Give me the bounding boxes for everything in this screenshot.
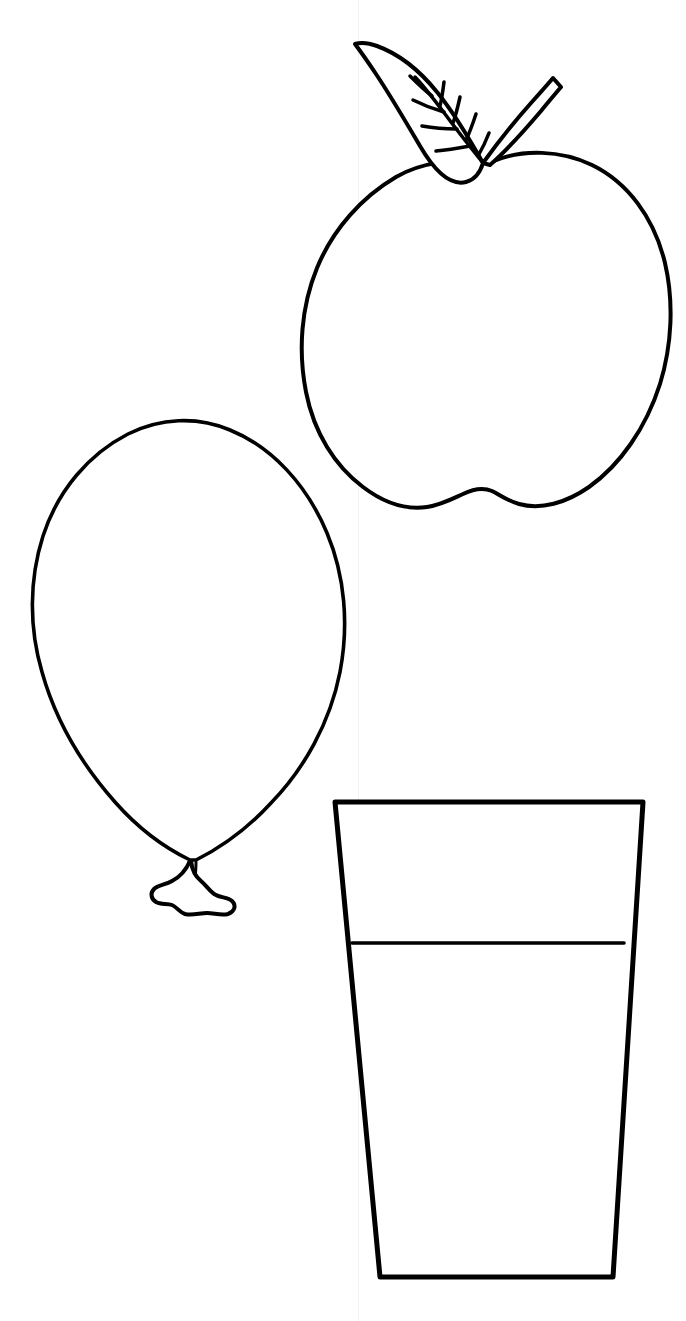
apple-leaf-shape xyxy=(355,43,483,183)
apple-leaf-vein-r2 xyxy=(466,114,476,140)
apple-body-shape xyxy=(302,153,671,508)
coloring-page xyxy=(0,0,686,1321)
glass-group xyxy=(335,802,643,1277)
balloon-knot-shape xyxy=(152,861,235,915)
glass-body-shape xyxy=(335,802,643,1277)
balloon-body-shape xyxy=(32,421,344,860)
line-art-canvas xyxy=(0,0,686,1321)
apple-group xyxy=(302,43,671,508)
apple-leaf-vein-r1 xyxy=(478,133,489,156)
balloon-group xyxy=(32,421,344,915)
